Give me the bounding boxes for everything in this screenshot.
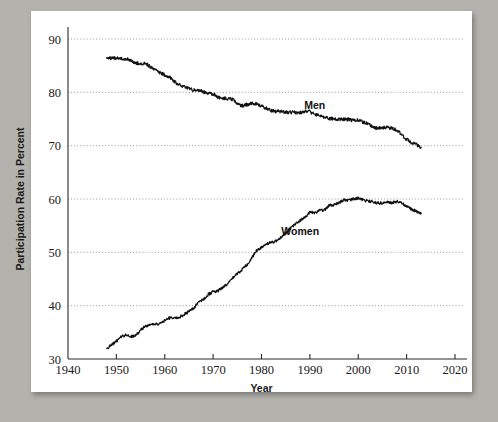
xtick-label-2020: 2020 <box>443 363 468 377</box>
xtick-label-1970: 1970 <box>201 363 226 377</box>
y-axis-title: Participation Rate in Percent <box>14 127 26 270</box>
series-line-women <box>107 197 421 349</box>
chart-svg: 1940195019601970198019902000201020203040… <box>0 0 498 422</box>
chart-figure: 1940195019601970198019902000201020203040… <box>0 0 498 422</box>
xtick-label-1980: 1980 <box>249 363 274 377</box>
series-label-women: Women <box>281 225 319 237</box>
ytick-label-30: 30 <box>49 353 62 367</box>
series-label-men: Men <box>304 99 325 111</box>
chart-plot-area: 1940195019601970198019902000201020203040… <box>0 0 498 422</box>
xtick-label-1950: 1950 <box>104 363 129 377</box>
xtick-label-2000: 2000 <box>346 363 371 377</box>
ytick-label-70: 70 <box>49 139 62 153</box>
x-axis-title: Year <box>250 382 272 394</box>
ytick-label-80: 80 <box>49 86 62 100</box>
ytick-label-90: 90 <box>49 33 62 47</box>
xtick-label-1960: 1960 <box>152 363 177 377</box>
ytick-label-60: 60 <box>49 193 62 207</box>
ytick-label-50: 50 <box>49 246 62 260</box>
xtick-label-1990: 1990 <box>297 363 322 377</box>
xtick-label-2010: 2010 <box>394 363 419 377</box>
series-line-men <box>107 57 421 148</box>
ytick-label-40: 40 <box>49 299 62 313</box>
